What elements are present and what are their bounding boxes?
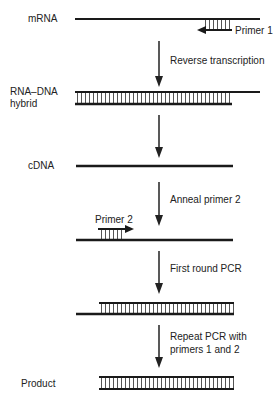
mrna-stage <box>75 19 260 34</box>
step-arrow-first-round <box>155 251 163 294</box>
arrow-down-icon <box>155 357 163 368</box>
stage-label-hybrid-line1: RNA–DNA <box>10 86 58 98</box>
first-round-hatch <box>100 304 234 313</box>
step-arrow-repeat <box>155 325 163 368</box>
primer2-label: Primer 2 <box>95 214 133 226</box>
arrow-down-icon <box>155 76 163 87</box>
anneal-stage <box>76 225 233 240</box>
step-arrow-reverse-transcription <box>155 41 163 87</box>
product-hatch <box>100 378 234 388</box>
step-arrow-cdna <box>155 115 163 158</box>
first-round-stage <box>76 303 234 314</box>
hybrid-stage <box>75 92 260 104</box>
arrow-down-icon <box>155 147 163 158</box>
stage-label-cdna: cDNA <box>28 160 54 172</box>
stage-label-mrna: mRNA <box>28 13 57 25</box>
step-label-first-round-pcr: First round PCR <box>170 262 242 275</box>
primer1-label: Primer 1 <box>235 25 273 37</box>
product-stage <box>99 377 234 389</box>
step-label-repeat-pcr-line1: Repeat PCR with <box>170 330 247 343</box>
stage-label-hybrid-line2: hybrid <box>10 98 37 110</box>
step-arrow-anneal <box>155 182 163 226</box>
primer2-arrowhead-icon <box>125 225 134 233</box>
primer1-arrowhead-icon <box>197 26 206 34</box>
hybrid-hatch <box>76 93 232 103</box>
primer2-hatch <box>98 230 122 239</box>
arrow-down-icon <box>155 215 163 226</box>
arrow-down-icon <box>155 283 163 294</box>
step-label-reverse-transcription: Reverse transcription <box>170 54 264 67</box>
step-label-repeat-pcr-line2: primers 1 and 2 <box>170 343 239 356</box>
stage-label-product: Product <box>21 378 55 390</box>
primer1-hatch <box>205 20 232 30</box>
step-label-anneal-primer-2: Anneal primer 2 <box>170 193 241 206</box>
